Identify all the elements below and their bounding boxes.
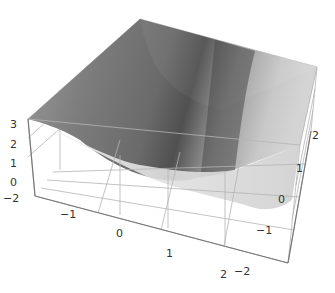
y-tick-neg2: −2 — [234, 265, 250, 278]
x-tick-2: 2 — [220, 268, 227, 281]
x-tick-neg1: −1 — [60, 208, 76, 221]
x-tick-0: 0 — [116, 227, 123, 240]
z-tick-0: 0 — [10, 176, 17, 189]
x-axis-ticks: −2 −1 0 1 2 — [3, 192, 227, 281]
z-tick-1: 1 — [10, 157, 17, 170]
z-tick-3: 3 — [10, 118, 17, 131]
z-axis-ticks: 3 2 1 0 — [10, 118, 17, 189]
x-tick-1: 1 — [166, 247, 173, 260]
y-tick-2: 2 — [312, 129, 319, 142]
y-tick-neg1: −1 — [256, 224, 272, 237]
x-tick-neg2: −2 — [3, 192, 19, 205]
z-tick-2: 2 — [10, 138, 17, 151]
y-tick-0: 0 — [278, 193, 285, 206]
surface-plot-3d[interactable]: 3 2 1 0 −2 −1 0 1 2 −2 −1 0 1 2 — [0, 0, 335, 293]
y-tick-1: 1 — [296, 162, 303, 175]
